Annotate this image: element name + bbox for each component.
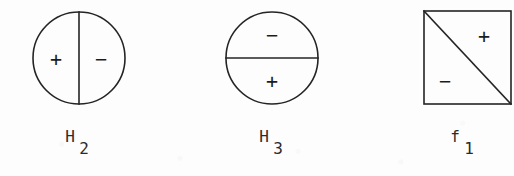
sign-minus-h3-top: − (266, 23, 278, 47)
figure-h3: − + H 3 (226, 12, 318, 158)
caption-h2-base: H (65, 127, 75, 146)
sign-plus-h3-bottom: + (266, 69, 278, 93)
caption-f1-base: f (450, 127, 460, 146)
sign-plus-h2-left: + (50, 47, 62, 71)
caption-h3-base: H (259, 127, 269, 146)
figure-f1: + − f 1 (424, 11, 511, 158)
caption-h3-subscript: 3 (273, 139, 283, 158)
sign-minus-f1-lower-left: − (439, 69, 451, 93)
sign-plus-f1-upper-right: + (478, 24, 490, 48)
figure-h2: + − H 2 (33, 12, 125, 158)
sign-diagram-figure: + − H 2 − + H 3 + − f 1 (0, 0, 514, 176)
caption-f1-subscript: 1 (464, 139, 474, 158)
sign-minus-h2-right: − (95, 47, 107, 71)
caption-h2-subscript: 2 (79, 139, 89, 158)
